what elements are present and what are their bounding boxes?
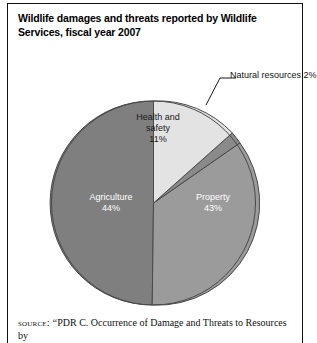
pie-label-health-and-safety-value: 11% xyxy=(113,134,203,145)
pie-label-natural-resources-value: 2% xyxy=(304,70,317,80)
pie-chart-svg xyxy=(8,46,302,314)
pie-label-property-value: 43% xyxy=(158,203,268,214)
callout-leader-line xyxy=(206,78,236,105)
pie-label-health-and-safety: Health and safety 11% xyxy=(113,112,203,145)
source-note-label: source: xyxy=(18,317,53,328)
pie-label-agriculture-name: Agriculture xyxy=(56,192,166,203)
pie-label-health-and-safety-name-line1: Health and xyxy=(113,112,203,123)
pie-label-property: Property 43% xyxy=(158,192,268,214)
pie-label-agriculture-value: 44% xyxy=(56,203,166,214)
source-note: source: “PDR C. Occurrence of Damage and… xyxy=(18,316,296,342)
figure-title-block: Wildlife damages and threats reported by… xyxy=(18,12,290,39)
pie-label-natural-resources: Natural resources 2% xyxy=(230,70,317,81)
pie-chart: Agriculture 44% Property 43% Health and … xyxy=(8,46,302,314)
pie-label-health-and-safety-name-line2: safety xyxy=(113,123,203,134)
page-title: Wildlife damages and threats reported by… xyxy=(18,12,290,39)
pie-label-natural-resources-name-line1: Natural xyxy=(230,70,259,80)
pie-label-property-name: Property xyxy=(158,192,268,203)
pie-label-natural-resources-name-line2: resources xyxy=(262,70,302,80)
source-note-text: “PDR C. Occurrence of Damage and Threats… xyxy=(18,317,287,341)
pie-label-agriculture: Agriculture 44% xyxy=(56,192,166,214)
